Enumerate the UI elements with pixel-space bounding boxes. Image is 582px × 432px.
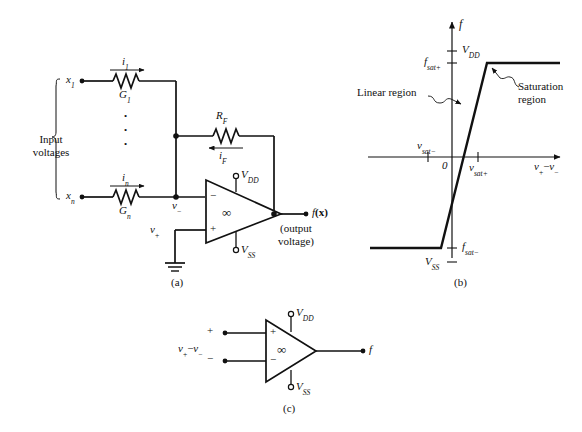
caption-c: (c) [283,403,295,415]
panel-c-input-minus-label: − [207,353,213,365]
chart-tick-label-vsat-plus: vsat+ [469,162,488,176]
chart-tick-label-fsat-minus: fsat− [462,241,479,255]
saturation-region-leader [500,77,519,87]
annotation-saturation-region: Saturation region [518,80,580,105]
supply-label-vss-c: VSS [296,381,310,395]
noninverting-node-label: v+ [150,224,159,238]
output-label-fx: f(x) [312,207,328,219]
feedback-resistor-label: RF [216,110,227,124]
supply-label-vdd-a: VDD [241,169,259,183]
vertical-ellipsis-dot-3: • [124,140,127,149]
vertical-ellipsis-dot-1: • [124,112,127,121]
linear-region-leader [428,96,451,103]
supply-label-vss-a: VSS [241,244,255,258]
chart-tick-label-vss: VSS [425,256,439,270]
input-branch-1 [80,70,176,88]
input-branch-n [80,186,205,204]
chart-tick-label-vdd: VDD [462,44,480,58]
chart-tick-label-vsat-minus: vsat− [417,140,436,154]
output-voltage-note: (output voltage) [258,222,334,247]
current-label-i1: i1 [122,56,129,70]
annotation-linear-region: Linear region [357,87,417,99]
feedback-current-label: iF [219,150,227,164]
opamp-c-plus-terminal: + [270,326,276,338]
figure-root: Input voltages x1 i1 G1 xn in Gn • • • R… [0,0,582,432]
panel-c-output-label: f [369,344,372,356]
input-voltages-label: Input voltages [22,133,80,158]
chart-x-axis-label: v+−v− [534,161,558,175]
vertical-ellipsis-dot-2: • [124,126,127,135]
input-node-label-xn: xn [66,190,75,204]
inverting-node-label: v− [172,200,181,214]
input-node-label-x1: x1 [66,74,75,88]
panel-c-input-plus-label: + [207,325,213,337]
current-label-in: in [122,172,129,186]
panel-c-symbol [223,311,366,389]
opamp-a-plus-terminal: + [210,223,216,235]
caption-b: (b) [454,277,467,289]
caption-a: (a) [171,277,183,289]
chart-origin-label: 0 [442,160,448,172]
conductance-label-gn: Gn [119,205,131,219]
noninverting-input-branch [165,230,206,271]
opamp-a-minus-terminal: − [210,190,216,202]
opamp-a-gain-symbol: ∞ [222,206,231,220]
figure-vector-layer [0,0,582,432]
chart-tick-label-fsat-plus: fsat+ [424,56,441,70]
chart-y-axis-label: f [459,18,462,31]
panel-c-differential-label: v+−v− [178,343,202,357]
supply-label-vdd-c: VDD [296,307,314,321]
opamp-c-gain-symbol: ∞ [277,343,286,357]
conductance-label-g1: G1 [119,89,131,103]
opamp-c-minus-terminal: − [270,354,276,366]
